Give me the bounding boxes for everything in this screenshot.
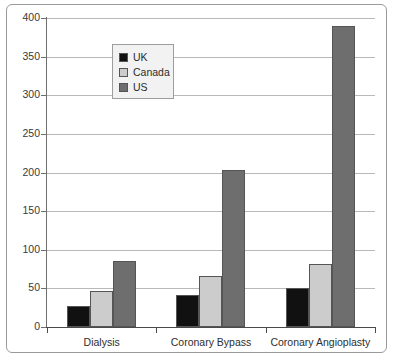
y-axis-tick-label: 300 [4,89,40,100]
gridline [47,134,375,135]
bar-canada-coronary-bypass [199,276,222,327]
bar-us-dialysis [113,261,136,327]
y-axis-line [46,17,47,328]
y-axis-tick-label: 50 [4,282,40,293]
legend-swatch-icon [119,53,128,62]
chart-figure: 050100150200250300350400 DialysisCoronar… [0,0,394,362]
bar-uk-coronary-bypass [176,295,199,327]
gridline [47,211,375,212]
legend-item-us[interactable]: US [119,80,169,95]
legend-label: UK [133,52,148,63]
gridline [47,57,375,58]
legend-label: US [133,82,148,93]
legend-swatch-icon [119,83,128,92]
x-axis-tick-mark [266,328,267,333]
chart-legend[interactable]: UKCanadaUS [112,44,174,99]
gridline [47,250,375,251]
x-axis-tick-mark [375,328,376,333]
legend-swatch-icon [119,68,128,77]
y-axis-tick-label: 350 [4,51,40,62]
y-axis-tick-label: 400 [4,12,40,23]
gridline [47,18,375,19]
bar-canada-dialysis [90,291,113,327]
x-axis-category-label: Coronary Angioplasty [240,336,394,348]
x-axis-tick-mark [156,328,157,333]
y-axis-tick-label: 250 [4,128,40,139]
gridline [47,173,375,174]
y-axis-tick-label: 100 [4,244,40,255]
y-axis-tick-label: 200 [4,167,40,178]
y-axis-tick-labels: 050100150200250300350400 [0,0,40,362]
y-axis-tick-label: 0 [4,321,40,332]
bar-canada-coronary-angioplasty [309,264,332,327]
gridline [47,95,375,96]
legend-item-uk[interactable]: UK [119,50,169,65]
legend-label: Canada [133,67,170,78]
bar-us-coronary-bypass [222,170,245,327]
x-axis-line [46,327,376,328]
bar-us-coronary-angioplasty [332,26,355,327]
x-axis-tick-mark [47,328,48,333]
legend-item-canada[interactable]: Canada [119,65,169,80]
bar-uk-coronary-angioplasty [286,288,309,327]
y-axis-tick-label: 150 [4,205,40,216]
bar-uk-dialysis [67,306,90,327]
